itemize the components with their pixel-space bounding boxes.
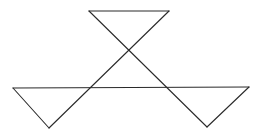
right-outer-edge-line [207,87,249,127]
left-outer-edge-line [13,88,49,128]
diagonal-line-b [49,11,169,128]
middle-horizontal-line [13,87,249,88]
triangle-line-diagram [0,0,260,136]
diagonal-line-a [89,11,207,127]
